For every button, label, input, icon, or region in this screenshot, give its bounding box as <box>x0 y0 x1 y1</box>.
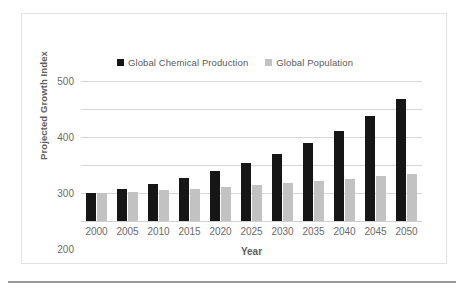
footer-divider <box>8 281 456 283</box>
x-axis-line <box>81 221 422 222</box>
bar-series-a[interactable] <box>210 171 220 221</box>
bar-group <box>360 81 391 221</box>
legend-swatch-icon-series-a <box>117 59 124 66</box>
legend-item-global-population[interactable]: Global Population <box>265 57 353 68</box>
x-axis-tick-label: 2045 <box>360 226 391 237</box>
legend-label-series-b: Global Population <box>276 57 353 68</box>
bar-group <box>143 81 174 221</box>
y-axis-title: Projected Growth Index <box>38 36 49 176</box>
y-axis-tick-label: 300 <box>57 188 74 199</box>
bar-series-b[interactable] <box>283 183 293 221</box>
bar-series-b[interactable] <box>376 176 386 221</box>
plot-area: 0100200300400500 <box>81 81 422 221</box>
bar-series-b[interactable] <box>190 189 200 221</box>
bar-group <box>267 81 298 221</box>
x-axis-tick-label: 2040 <box>329 226 360 237</box>
bar-series-b[interactable] <box>314 181 324 221</box>
x-axis-tick-label: 2030 <box>267 226 298 237</box>
bar-series-a[interactable] <box>365 116 375 221</box>
bar-series-b[interactable] <box>221 187 231 221</box>
bar-series-b[interactable] <box>97 193 107 221</box>
bar-series-a[interactable] <box>396 99 406 221</box>
x-axis-tick-label: 2000 <box>81 226 112 237</box>
x-axis-tick-label: 2050 <box>391 226 422 237</box>
bar-series-b[interactable] <box>407 174 417 221</box>
bar-group <box>298 81 329 221</box>
bar-group <box>112 81 143 221</box>
bar-series-a[interactable] <box>241 163 251 221</box>
bar-group <box>81 81 112 221</box>
legend-label-series-a: Global Chemical Production <box>128 57 248 68</box>
bar-group <box>205 81 236 221</box>
chart-page: Global Chemical Production Global Popula… <box>0 0 464 291</box>
x-axis-title: Year <box>81 246 422 257</box>
x-axis-tick-label: 2005 <box>112 226 143 237</box>
chart-frame: Global Chemical Production Global Popula… <box>21 13 447 264</box>
bar-series-b[interactable] <box>252 185 262 221</box>
y-axis-tick-label: 400 <box>57 132 74 143</box>
legend-swatch-icon-series-b <box>265 59 272 66</box>
bar-series-b[interactable] <box>159 190 169 221</box>
x-axis-tick-labels: 2000200520102015202020252030203520402045… <box>81 226 422 237</box>
bar-group <box>329 81 360 221</box>
x-axis-tick-label: 2025 <box>236 226 267 237</box>
bar-series-a[interactable] <box>179 178 189 221</box>
legend-item-global-chemical-production[interactable]: Global Chemical Production <box>117 57 248 68</box>
x-axis-tick-label: 2035 <box>298 226 329 237</box>
bar-group <box>174 81 205 221</box>
bar-series-a[interactable] <box>148 184 158 221</box>
x-axis-tick-label: 2015 <box>174 226 205 237</box>
y-axis-tick-label: 200 <box>57 244 74 255</box>
bar-series-a[interactable] <box>303 143 313 221</box>
bar-series-a[interactable] <box>272 154 282 221</box>
bar-series-a[interactable] <box>334 131 344 221</box>
x-axis-tick-label: 2020 <box>205 226 236 237</box>
chart-legend: Global Chemical Production Global Popula… <box>22 57 448 68</box>
bar-group <box>391 81 422 221</box>
bar-series-a[interactable] <box>86 193 96 221</box>
y-axis-tick-label: 500 <box>57 76 74 87</box>
bar-series-b[interactable] <box>345 179 355 221</box>
bar-series-b[interactable] <box>128 192 138 221</box>
x-axis-tick-label: 2010 <box>143 226 174 237</box>
bar-series-a[interactable] <box>117 189 127 221</box>
bar-group <box>236 81 267 221</box>
bar-groups <box>81 81 422 221</box>
